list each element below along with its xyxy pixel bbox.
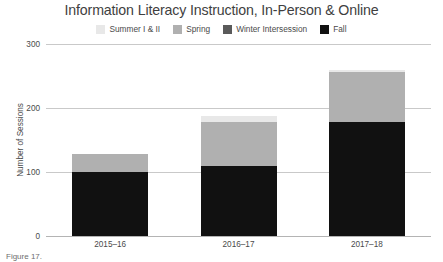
legend-swatch-icon	[320, 25, 329, 34]
x-axis-tick-label: 2017–18	[351, 240, 383, 249]
bar-stack[interactable]	[201, 116, 277, 236]
bar-segment-spring[interactable]	[201, 122, 277, 166]
bars-layer	[46, 44, 431, 236]
y-axis-tick-label: 0	[35, 232, 40, 241]
x-axis-tick-label: 2015–16	[94, 240, 126, 249]
figure-caption: Figure 17.	[6, 252, 126, 262]
y-axis-tick-label: 100	[26, 168, 40, 177]
legend-label: Summer I & II	[109, 24, 160, 34]
legend-swatch-icon	[173, 25, 182, 34]
legend-label: Fall	[333, 24, 346, 34]
x-axis-baseline	[46, 236, 431, 237]
legend-swatch-icon	[223, 25, 232, 34]
y-axis-title: Number of Sessions	[16, 103, 25, 177]
plot-area: Number of Sessions 0100200300 2015–16201…	[46, 44, 431, 236]
legend-item-summer-i-ii[interactable]: Summer I & II	[96, 24, 160, 34]
bar-segment-spring[interactable]	[72, 154, 148, 172]
y-axis-tick-label: 300	[26, 40, 40, 49]
legend-swatch-icon	[96, 25, 105, 34]
legend-item-spring[interactable]: Spring	[173, 24, 210, 34]
chart-container: Information Literacy Instruction, In-Per…	[0, 0, 443, 262]
bar-stack[interactable]	[72, 154, 148, 236]
legend-label: Spring	[186, 24, 210, 34]
x-axis-tick-label: 2016–17	[223, 240, 255, 249]
chart-legend: Summer I & IISpringWinter IntersessionFa…	[0, 24, 443, 34]
bar-segment-fall[interactable]	[201, 166, 277, 236]
legend-item-fall[interactable]: Fall	[320, 24, 346, 34]
y-axis-tick-label: 200	[26, 104, 40, 113]
bar-stack[interactable]	[329, 70, 405, 236]
bar-segment-fall[interactable]	[72, 172, 148, 236]
bar-segment-summer-i-ii[interactable]	[201, 116, 277, 122]
bar-segment-spring[interactable]	[329, 72, 405, 122]
legend-item-winter-intersession[interactable]: Winter Intersession	[223, 24, 307, 34]
bar-segment-summer-i-ii[interactable]	[329, 70, 405, 73]
bar-segment-fall[interactable]	[329, 122, 405, 236]
chart-title: Information Literacy Instruction, In-Per…	[0, 2, 443, 18]
legend-label: Winter Intersession	[236, 24, 307, 34]
